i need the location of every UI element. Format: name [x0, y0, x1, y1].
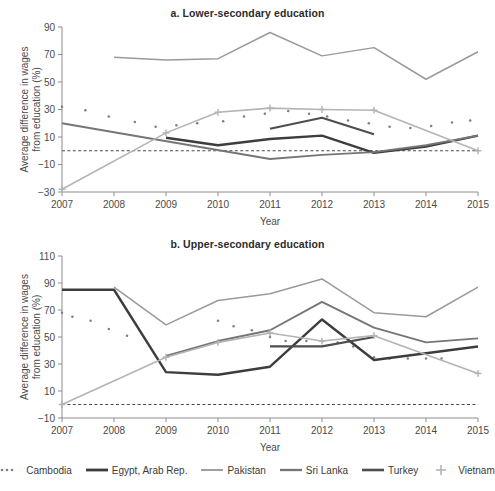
- series-dot-cambodia: [305, 340, 308, 343]
- legend-swatch-vietnam-icon: [432, 465, 454, 475]
- x-tick-label: 2014: [415, 425, 438, 436]
- series-dot-cambodia: [409, 127, 412, 130]
- series-dot-cambodia: [243, 115, 246, 118]
- series-dot-cambodia: [108, 115, 111, 118]
- series-dot-cambodia: [196, 122, 199, 125]
- legend-item-cambodia[interactable]: Cambodia: [0, 465, 72, 476]
- panel-a-title: a. Lower-secondary education: [0, 7, 495, 19]
- legend-item-turkey[interactable]: Turkey: [362, 465, 418, 476]
- series-dot-cambodia: [308, 112, 311, 115]
- series-line-turkey: [270, 118, 374, 135]
- x-tick-label: 2013: [363, 425, 386, 436]
- series-dot-cambodia: [284, 340, 287, 343]
- legend-swatch-pakistan-icon: [201, 465, 223, 475]
- y-tick-label: 110: [39, 251, 55, 262]
- series-dot-cambodia: [451, 121, 454, 124]
- legend-swatch-sri-lanka-icon: [280, 465, 302, 475]
- legend-item-egypt-arab-rep-[interactable]: Egypt, Arab Rep.: [86, 465, 188, 476]
- legend-label: Cambodia: [26, 465, 72, 476]
- series-dot-cambodia: [287, 110, 290, 113]
- x-tick-label: 2011: [259, 425, 281, 436]
- series-plus-marker-vietnam: [267, 105, 274, 112]
- series-dot-cambodia: [368, 122, 371, 125]
- x-tick-label: 2011: [259, 199, 281, 210]
- panel-b-plot: −101030507090110200720082009201020112012…: [0, 232, 495, 454]
- series-dot-cambodia: [251, 329, 254, 332]
- x-tick-label: 2012: [311, 425, 334, 436]
- y-tick-label: 90: [44, 22, 56, 33]
- series-dot-cambodia: [217, 320, 220, 323]
- series-plus-marker-vietnam: [371, 107, 378, 114]
- y-axis-title-line1: Average difference in wages: [19, 47, 30, 173]
- legend-item-pakistan[interactable]: Pakistan: [201, 465, 265, 476]
- y-tick-label: 70: [44, 305, 56, 316]
- series-dot-cambodia: [347, 119, 350, 122]
- legend-label: Egypt, Arab Rep.: [112, 465, 188, 476]
- y-axis-title-line1: Average difference in wages: [19, 274, 30, 400]
- series-line-sri-lanka: [166, 302, 478, 356]
- legend-label: Sri Lanka: [306, 465, 348, 476]
- legend-label: Vietnam: [458, 465, 495, 476]
- x-tick-label: 2012: [311, 199, 334, 210]
- x-tick-label: 2015: [467, 199, 490, 210]
- panel-b-title: b. Upper-secondary education: [0, 238, 495, 250]
- y-tick-label: 10: [44, 132, 56, 143]
- series-dot-cambodia: [84, 109, 87, 112]
- legend-swatch-egypt-arab-rep--icon: [86, 465, 108, 475]
- x-tick-label: 2010: [207, 199, 230, 210]
- series-dot-cambodia: [388, 125, 391, 128]
- series-dot-cambodia: [430, 125, 433, 128]
- y-tick-label: 10: [44, 386, 56, 397]
- panel-a-plot: −30−101030507090200720082009201020112012…: [0, 0, 495, 232]
- chart-panel-upper-secondary: b. Upper-secondary education −1010305070…: [0, 232, 495, 454]
- y-tick-label: 50: [44, 332, 56, 343]
- series-dot-cambodia: [222, 120, 225, 123]
- legend-row: CambodiaEgypt, Arab Rep.PakistanSri Lank…: [0, 460, 495, 480]
- series-dot-cambodia: [61, 311, 64, 314]
- x-tick-label: 2008: [103, 199, 126, 210]
- series-dot-cambodia: [175, 124, 178, 127]
- x-tick-label: 2014: [415, 199, 438, 210]
- legend-swatch-cambodia-icon: [0, 465, 22, 475]
- x-axis-title: Year: [260, 442, 281, 453]
- series-dot-cambodia: [232, 325, 235, 328]
- series-dot-cambodia: [134, 121, 137, 124]
- series-dot-cambodia: [264, 112, 267, 115]
- series-dot-cambodia: [61, 106, 64, 109]
- x-tick-label: 2007: [51, 425, 74, 436]
- chart-panel-lower-secondary: a. Lower-secondary education −30−1010305…: [0, 0, 495, 232]
- x-tick-label: 2010: [207, 425, 230, 436]
- x-tick-label: 2013: [363, 199, 386, 210]
- series-plus-marker-vietnam: [319, 338, 326, 345]
- y-tick-label: 50: [44, 77, 56, 88]
- y-tick-label: 30: [44, 359, 56, 370]
- series-dot-cambodia: [126, 334, 129, 337]
- y-axis-title-line2: from education (%): [31, 295, 42, 379]
- series-plus-marker-vietnam: [215, 109, 222, 116]
- series-dot-cambodia: [154, 125, 157, 128]
- x-tick-label: 2009: [155, 199, 178, 210]
- series-plus-marker-vietnam: [319, 106, 326, 113]
- series-line-pakistan: [114, 33, 478, 80]
- series-dot-cambodia: [108, 328, 111, 331]
- series-line-vietnam: [62, 333, 478, 405]
- y-axis-title-line2: from education (%): [31, 67, 42, 151]
- y-tick-label: 30: [44, 104, 56, 115]
- legend-item-vietnam[interactable]: Vietnam: [432, 465, 495, 476]
- legend-item-sri-lanka[interactable]: Sri Lanka: [280, 465, 348, 476]
- series-plus-marker-vietnam: [163, 129, 170, 136]
- y-tick-label: 90: [44, 278, 56, 289]
- series-plus-marker-vietnam: [475, 147, 482, 154]
- x-tick-label: 2008: [103, 425, 126, 436]
- x-tick-label: 2007: [51, 199, 74, 210]
- x-axis-title: Year: [260, 216, 281, 227]
- x-tick-label: 2015: [467, 425, 490, 436]
- y-tick-label: 70: [44, 49, 56, 60]
- y-tick-label: −10: [38, 159, 55, 170]
- figure-container: a. Lower-secondary education −30−1010305…: [0, 0, 495, 491]
- y-tick-label: −10: [38, 413, 55, 424]
- series-dot-cambodia: [425, 357, 428, 360]
- series-plus-marker-vietnam: [59, 401, 66, 408]
- legend-swatch-turkey-icon: [362, 465, 384, 475]
- legend-label: Turkey: [388, 465, 418, 476]
